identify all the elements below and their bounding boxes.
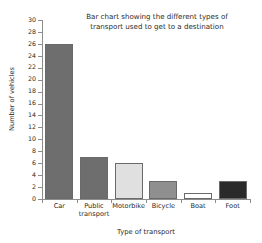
bar: [45, 44, 73, 199]
y-axis-tick-label: 6: [32, 159, 36, 166]
y-axis-tick: 20: [38, 80, 42, 81]
y-axis-tick: 12: [38, 127, 42, 128]
y-axis-tick-label: 26: [28, 40, 36, 47]
y-axis-tick-label: 18: [28, 87, 36, 94]
y-axis-tick-label: 28: [28, 28, 36, 35]
x-axis-tick: [250, 199, 251, 203]
y-axis-tick: 22: [38, 68, 42, 69]
bar: [219, 181, 247, 199]
y-axis-tick: 18: [38, 92, 42, 93]
y-axis-tick-label: 4: [32, 171, 36, 178]
y-axis-tick-label: 10: [28, 135, 36, 142]
y-axis-tick: 10: [38, 139, 42, 140]
x-axis-category-label: Foot: [215, 202, 250, 210]
bar: [184, 193, 212, 199]
x-axis-label: Type of transport: [42, 228, 250, 236]
y-axis-line: [42, 20, 43, 199]
x-axis-category-label: Boat: [181, 202, 216, 210]
y-axis-tick-label: 0: [32, 195, 36, 202]
bar: [80, 157, 108, 199]
y-axis-tick-label: 22: [28, 63, 36, 70]
x-axis-category-label: Motorbike: [111, 202, 146, 210]
y-axis-tick-label: 30: [28, 16, 36, 23]
x-axis-category-label: Public transport: [77, 202, 112, 219]
y-axis-tick: 8: [38, 151, 42, 152]
y-axis-tick: 24: [38, 56, 42, 57]
y-axis-tick: 30: [38, 20, 42, 21]
y-axis-tick: 28: [38, 32, 42, 33]
y-axis-tick-label: 8: [32, 147, 36, 154]
plot-area: 024681012141618202224262830 CarPublic tr…: [42, 20, 250, 199]
y-axis-tick-label: 20: [28, 75, 36, 82]
bar: [115, 163, 143, 199]
y-axis-tick: 4: [38, 175, 42, 176]
y-axis-tick: 26: [38, 44, 42, 45]
y-axis-tick: 14: [38, 115, 42, 116]
chart-figure: Bar chart showing the different types of…: [0, 0, 262, 243]
y-axis-tick: 16: [38, 104, 42, 105]
y-axis-label: Number of vehicles: [8, 54, 16, 144]
y-axis-tick-label: 12: [28, 123, 36, 130]
bar: [149, 181, 177, 199]
y-axis-tick-label: 16: [28, 99, 36, 106]
y-axis-tick-label: 2: [32, 183, 36, 190]
y-axis-tick: 2: [38, 187, 42, 188]
x-axis-category-label: Car: [42, 202, 77, 210]
y-axis-tick-label: 24: [28, 52, 36, 59]
y-axis-tick: 6: [38, 163, 42, 164]
y-axis-tick-label: 14: [28, 111, 36, 118]
x-axis-category-label: Bicycle: [146, 202, 181, 210]
